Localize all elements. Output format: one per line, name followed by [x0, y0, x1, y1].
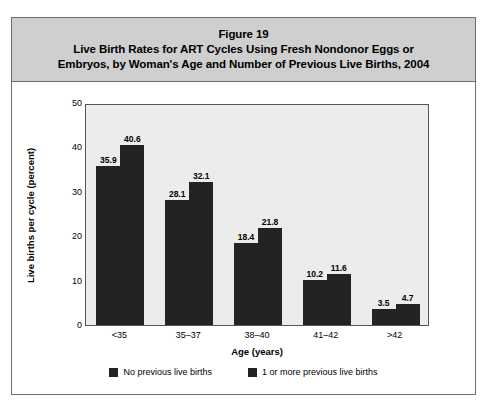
bar-group: 10.211.6 — [292, 105, 361, 325]
legend-swatch-icon — [248, 368, 257, 377]
bar[interactable] — [258, 228, 282, 325]
bar[interactable] — [234, 243, 258, 325]
x-axis-tick-labels: <3535–3738–4041–42>42 — [85, 330, 429, 344]
bar[interactable] — [303, 280, 327, 325]
bar-group: 18.421.8 — [224, 105, 293, 325]
figure-title-line-1: Figure 19 — [218, 27, 268, 42]
bar-value-label: 21.8 — [253, 217, 287, 227]
bar[interactable] — [120, 145, 144, 325]
y-axis-tick-label: 40 — [72, 143, 82, 152]
x-axis-tick-label: <35 — [85, 330, 154, 341]
figure-title-line-3: Embryos, by Woman's Age and Number of Pr… — [58, 57, 429, 72]
bar[interactable] — [372, 309, 396, 325]
legend-item[interactable]: No previous live births — [109, 367, 212, 377]
bar-group: 28.132.1 — [155, 105, 224, 325]
x-axis-tick-label: 41–42 — [291, 330, 360, 341]
y-axis-title-text: Live births per cycle (percent) — [26, 147, 37, 282]
bars-layer: 35.940.628.132.118.421.810.211.63.54.7 — [86, 105, 428, 325]
x-axis-title: Age (years) — [85, 346, 429, 357]
bar[interactable] — [165, 200, 189, 325]
bar[interactable] — [327, 274, 351, 326]
legend-label: 1 or more previous live births — [262, 367, 378, 377]
y-axis-tick-label: 10 — [72, 277, 82, 286]
bar-group: 35.940.6 — [86, 105, 155, 325]
y-axis-tick-label: 0 — [77, 321, 82, 330]
chart-legend: No previous live births1 or more previou… — [12, 367, 475, 377]
bar-group: 3.54.7 — [361, 105, 430, 325]
x-axis-tick-label: 35–37 — [154, 330, 223, 341]
plot-area: 35.940.628.132.118.421.810.211.63.54.7 — [85, 104, 429, 326]
figure-title-line-2: Live Birth Rates for ART Cycles Using Fr… — [73, 42, 414, 57]
bar[interactable] — [396, 304, 420, 325]
bar-value-label: 4.7 — [391, 293, 425, 303]
figure-title-band: Figure 19 Live Birth Rates for ART Cycle… — [12, 18, 475, 82]
y-axis-tick-label: 50 — [72, 99, 82, 108]
bar[interactable] — [96, 166, 120, 325]
legend-swatch-icon — [109, 368, 118, 377]
chart-container: Live births per cycle (percent) 01020304… — [12, 82, 475, 395]
y-axis-tick-label: 20 — [72, 232, 82, 241]
legend-item[interactable]: 1 or more previous live births — [248, 367, 378, 377]
legend-label: No previous live births — [123, 367, 212, 377]
x-axis-tick-label: 38–40 — [223, 330, 292, 341]
figure-frame: Figure 19 Live Birth Rates for ART Cycle… — [11, 17, 476, 395]
x-axis-tick-label: >42 — [360, 330, 429, 341]
y-axis-title: Live births per cycle (percent) — [24, 104, 38, 326]
y-axis-tick-label: 30 — [72, 188, 82, 197]
bar-value-label: 32.1 — [184, 171, 218, 181]
y-axis-tick-labels: 01020304050 — [56, 104, 82, 326]
bar-value-label: 40.6 — [115, 134, 149, 144]
bar[interactable] — [189, 182, 213, 325]
bar-value-label: 11.6 — [322, 263, 356, 273]
